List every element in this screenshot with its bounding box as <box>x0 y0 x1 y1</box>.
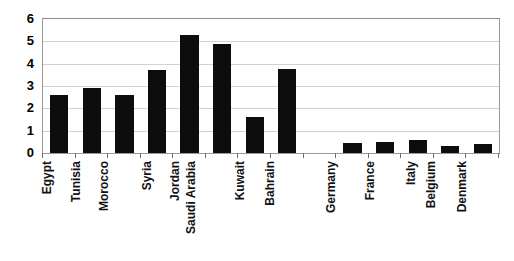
x-axis-label: Egypt <box>42 161 54 194</box>
bar-slot <box>43 19 76 153</box>
x-axis-tick <box>400 153 401 158</box>
y-axis-tick-label: 0 <box>27 146 34 159</box>
x-axis-label: Syria <box>141 161 153 190</box>
x-axis-tick <box>42 153 43 158</box>
y-axis-tick-label: 2 <box>27 101 34 114</box>
x-axis-label: Jordan <box>169 161 181 201</box>
x-axis-tick <box>237 153 238 158</box>
bar[interactable] <box>376 142 394 153</box>
bar-slot <box>467 19 500 153</box>
bar-slot <box>336 19 369 153</box>
x-axis-tick <box>140 153 141 158</box>
bar-slot <box>206 19 239 153</box>
plot-area <box>42 18 500 154</box>
x-axis-tick <box>107 153 108 158</box>
x-axis-label: Tunisia <box>70 161 82 202</box>
x-axis-tick <box>205 153 206 158</box>
bar-slot <box>173 19 206 153</box>
bar-slot <box>401 19 434 153</box>
y-axis-tick-label: 3 <box>27 79 34 92</box>
y-axis: 0123456 <box>0 0 42 261</box>
x-axis-label: Bahrain <box>264 161 276 206</box>
bar[interactable] <box>343 143 361 153</box>
bar-chart: 0123456 EgyptTunisiaMoroccoSyriaJordanSa… <box>0 0 514 261</box>
y-axis-tick-label: 6 <box>27 12 34 25</box>
bar-slot <box>76 19 109 153</box>
x-axis-label: France <box>364 161 376 200</box>
y-axis-tick-label: 1 <box>27 123 34 136</box>
x-axis-tick <box>433 153 434 158</box>
x-axis-label-slot: Denmark <box>466 159 499 259</box>
bar[interactable] <box>148 70 166 153</box>
x-axis-tick <box>303 153 304 158</box>
x-axis-label: Belgium <box>426 161 438 208</box>
x-axis-label-slot: Morocco <box>107 159 140 259</box>
x-axis-label: Italy <box>405 161 417 185</box>
x-axis-ticks <box>42 153 500 158</box>
x-axis-tick <box>465 153 466 158</box>
bar[interactable] <box>213 44 231 153</box>
bar-slot <box>304 19 337 153</box>
bar[interactable] <box>441 146 459 153</box>
x-axis-tick <box>75 153 76 158</box>
bar-slot <box>141 19 174 153</box>
x-axis-tick <box>270 153 271 158</box>
bar[interactable] <box>50 95 68 153</box>
bar-slot <box>271 19 304 153</box>
bar[interactable] <box>115 95 133 153</box>
x-axis-label-slot: France <box>368 159 401 259</box>
bar[interactable] <box>246 117 264 153</box>
bar-slot <box>108 19 141 153</box>
bar[interactable] <box>409 140 427 153</box>
x-axis-label: Germany <box>325 161 337 213</box>
x-axis-tick <box>498 153 499 158</box>
bar[interactable] <box>278 69 296 153</box>
bar[interactable] <box>83 88 101 153</box>
bar-slot <box>238 19 271 153</box>
x-axis-label: Kuwait <box>234 161 246 200</box>
x-axis-label: Saudi Arabia <box>185 161 197 234</box>
bar[interactable] <box>180 35 198 153</box>
x-axis-tick <box>335 153 336 158</box>
bar[interactable] <box>474 144 492 153</box>
bars-container <box>43 19 499 153</box>
x-axis-tick <box>172 153 173 158</box>
x-axis-labels: EgyptTunisiaMoroccoSyriaJordanSaudi Arab… <box>42 159 498 259</box>
y-axis-tick-label: 5 <box>27 34 34 47</box>
x-axis-label: Denmark <box>456 161 468 212</box>
y-axis-tick-label: 4 <box>27 56 34 69</box>
x-axis-label-slot: Bahrain <box>270 159 303 259</box>
bar-slot <box>369 19 402 153</box>
x-axis-label: Morocco <box>98 161 110 211</box>
bar-slot <box>434 19 467 153</box>
x-axis-tick <box>368 153 369 158</box>
